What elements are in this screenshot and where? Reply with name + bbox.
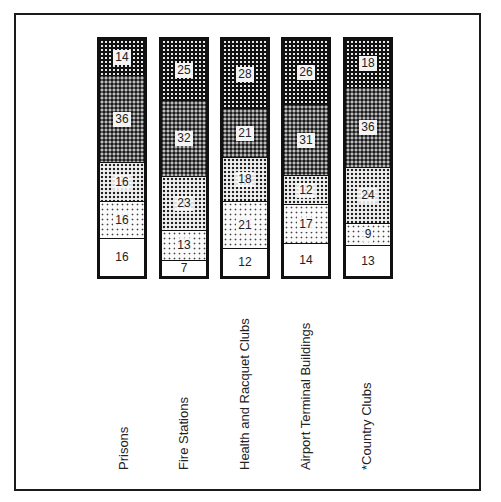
segment-value: 36: [359, 120, 376, 135]
segment-value: 25: [175, 63, 192, 78]
segment: 9: [346, 223, 390, 245]
segment-value: 7: [179, 261, 190, 276]
segment: 18: [346, 40, 390, 87]
segment-value: 21: [236, 126, 253, 141]
segment-value: 16: [113, 250, 130, 265]
segment: 7: [162, 260, 206, 276]
segment-value: 23: [175, 196, 192, 211]
segment-value: 13: [175, 238, 192, 253]
segment: 23: [162, 176, 206, 230]
segment: 14: [284, 243, 328, 276]
segment: 21: [223, 108, 267, 157]
segment: 13: [346, 245, 390, 276]
segment-value: 16: [113, 175, 130, 190]
segment: 31: [284, 104, 328, 175]
segment-value: 17: [297, 217, 314, 232]
segment: 14: [100, 40, 144, 75]
category-label-airport-terminal-buildings: Airport Terminal Buildings: [298, 323, 313, 470]
segment: 18: [223, 157, 267, 201]
segment: 21: [223, 201, 267, 248]
segment-value: 31: [297, 133, 314, 148]
segment: 36: [100, 75, 144, 162]
segment: 26: [284, 40, 328, 104]
segment-value: 18: [359, 56, 376, 71]
segment-value: 12: [236, 255, 253, 270]
segment-value: 26: [297, 65, 314, 80]
segment: 24: [346, 167, 390, 223]
segment-value: 12: [297, 183, 314, 198]
segment: 28: [223, 40, 267, 108]
segment-value: 32: [175, 131, 192, 146]
category-label-prisons: Prisons: [116, 427, 131, 470]
segment: 16: [100, 238, 144, 276]
bar-country-clubs: 18 36 24 9 13: [343, 37, 393, 279]
bar-airport-terminal-buildings: 26 31 12 17 14: [281, 37, 331, 279]
segment: 36: [346, 87, 390, 167]
segment: 25: [162, 40, 206, 100]
segment: 16: [100, 162, 144, 201]
segment: 12: [284, 175, 328, 204]
segment-value: 9: [363, 227, 374, 242]
bar-health-racquet-clubs: 28 21 18 21 12: [220, 37, 270, 279]
category-label-fire-stations: Fire Stations: [176, 397, 191, 470]
category-label-country-clubs: *Country Clubs: [359, 383, 374, 470]
segment-value: 14: [297, 253, 314, 268]
category-label-health-racquet-clubs: Health and Racquet Clubs: [237, 318, 252, 470]
bar-fire-stations: 25 32 23 13 7: [159, 37, 209, 279]
segment-value: 18: [236, 172, 253, 187]
segment-value: 21: [236, 218, 253, 233]
segment-value: 14: [113, 50, 130, 65]
segment-value: 28: [236, 67, 253, 82]
segment-value: 13: [359, 254, 376, 269]
segment: 17: [284, 204, 328, 243]
bar-prisons: 14 36 16 16 16: [97, 37, 147, 279]
segment: 13: [162, 230, 206, 260]
segment-value: 36: [113, 112, 130, 127]
segment-value: 24: [359, 188, 376, 203]
segment-value: 16: [113, 213, 130, 228]
segment: 12: [223, 248, 267, 276]
segment: 32: [162, 100, 206, 176]
segment: 16: [100, 201, 144, 238]
